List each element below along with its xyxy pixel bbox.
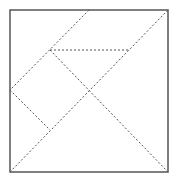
left-lower-cut-line [10,90,50,130]
dashed-cut-lines [10,10,168,172]
inner-diagonal-line [50,50,168,172]
top-left-cut-line [10,10,89,90]
tangram-diagram [0,0,179,183]
